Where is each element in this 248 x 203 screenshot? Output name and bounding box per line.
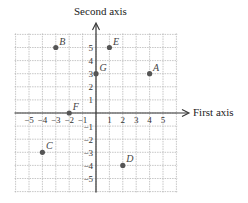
x-axis-title: First axis (193, 106, 234, 118)
point-label-e: E (112, 36, 119, 47)
data-point-e (107, 45, 112, 50)
data-point-c (40, 150, 45, 155)
x-tick-label: 2 (121, 115, 126, 125)
data-point-g (93, 71, 98, 76)
x-tick-label: −3 (51, 115, 61, 125)
y-tick-label: −4 (83, 161, 93, 171)
data-point-a (147, 71, 152, 76)
y-tick-label: −2 (83, 135, 93, 145)
point-label-c: C (46, 140, 53, 151)
y-tick-label: −3 (83, 148, 93, 158)
x-tick-label: 4 (147, 115, 152, 125)
point-label-g: G (100, 62, 107, 73)
x-tick-label: −5 (24, 115, 34, 125)
y-tick-label: 1 (89, 95, 94, 105)
y-tick-label: 2 (89, 82, 94, 92)
y-tick-label: −1 (83, 122, 93, 132)
x-tick-label: −4 (38, 115, 48, 125)
x-tick-label: −2 (64, 115, 74, 125)
data-point-f (67, 110, 72, 115)
y-tick-label: 3 (89, 69, 94, 79)
y-tick-label: 4 (89, 56, 94, 66)
x-tick-label: 5 (161, 115, 166, 125)
point-label-a: A (152, 62, 160, 73)
point-label-b: B (59, 36, 65, 47)
data-point-d (120, 163, 125, 168)
y-tick-label: 5 (89, 43, 94, 53)
data-point-b (53, 45, 58, 50)
x-tick-label: 3 (134, 115, 139, 125)
y-axis-title: Second axis (74, 5, 127, 17)
coordinate-plane: −5−4−3−2−11234554321−1−2−3−4−5ABCDEFG (0, 0, 248, 203)
point-label-d: D (125, 153, 134, 164)
point-label-f: F (72, 101, 80, 112)
x-tick-label: 1 (107, 115, 112, 125)
y-tick-label: −5 (83, 174, 93, 184)
